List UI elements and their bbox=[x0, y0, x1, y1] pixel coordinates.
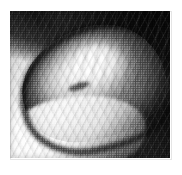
region-eye-rim-lashline bbox=[10, 11, 170, 158]
region-iris-highlight bbox=[72, 45, 124, 85]
page-canvas: animal eye close-up halftone dot screen,… bbox=[0, 0, 182, 175]
halftone-eye-image bbox=[10, 11, 170, 158]
